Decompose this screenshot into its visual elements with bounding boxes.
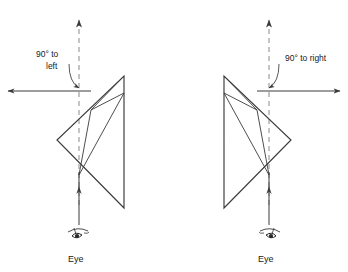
prism-outline-right: [224, 76, 291, 208]
prism-outline-left: [57, 76, 124, 208]
angle-arc-right: [269, 64, 279, 88]
panel-left: 90° to left Eye: [8, 20, 124, 264]
deviation-label-right-line1: 90° to right: [285, 53, 327, 63]
prism-facet-b-right: [224, 76, 257, 110]
prism-facet-b-left: [91, 76, 124, 110]
eye-label-left: Eye: [68, 254, 84, 264]
optics-diagram-svg: 90° to left Eye 90° to right: [0, 0, 348, 272]
diagram-canvas: 90° to left Eye 90° to right: [0, 0, 348, 272]
eye-label-right: Eye: [258, 254, 274, 264]
prism-facet-d-left: [79, 93, 124, 175]
eye-icon-right: [259, 228, 280, 238]
deviation-label-left-line2: left: [46, 61, 58, 71]
angle-arc-left: [69, 64, 79, 88]
eye-icon-left: [68, 228, 89, 238]
deviation-label-left-line1: 90° to: [36, 49, 59, 59]
prism-facet-d-right: [224, 93, 269, 175]
prism-facet-c-right: [257, 110, 269, 175]
panel-right: 90° to right Eye: [224, 20, 340, 264]
prism-facet-c-left: [79, 110, 91, 175]
